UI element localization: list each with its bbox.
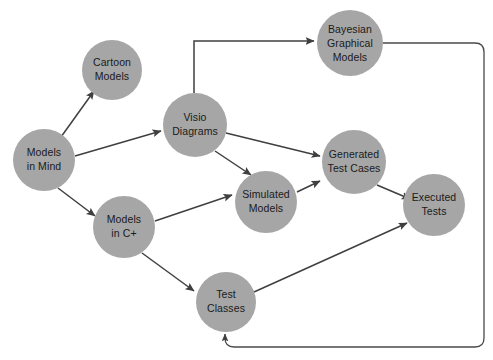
edge-mind-to-cplus	[58, 188, 95, 216]
edge-cplus-to-simulated	[155, 195, 232, 221]
node-label-line1: Executed	[412, 191, 457, 203]
node-label-line2: Models	[249, 202, 283, 214]
node-label-line3: Models	[333, 51, 367, 63]
node-generated-test-cases[interactable]: Generated Test Cases	[322, 130, 386, 194]
diagram-canvas: Models in Mind Cartoon Models Visio Diag…	[0, 0, 493, 360]
node-label-line1: Bayesian	[328, 23, 372, 35]
node-label-line2: Test Cases	[328, 162, 381, 174]
node-cartoon-models[interactable]: Cartoon Models	[82, 40, 142, 100]
node-executed-tests[interactable]: Executed Tests	[403, 174, 465, 236]
node-label-line1: Models	[27, 146, 61, 158]
node-bayesian-graphical-models[interactable]: Bayesian Graphical Models	[317, 10, 383, 76]
edge-mind-to-visio	[75, 131, 161, 156]
edge-visio-to-simulated	[215, 151, 251, 175]
node-simulated-models[interactable]: Simulated Models	[235, 171, 297, 233]
node-models-in-c-plus[interactable]: Models in C+	[93, 196, 155, 258]
node-label-line2: Diagrams	[172, 125, 218, 137]
edge-simulated-to-generated	[297, 181, 320, 192]
node-label-line2: Models	[95, 70, 129, 82]
node-label-line1: Models	[107, 213, 141, 225]
node-label-line2: Graphical	[327, 37, 373, 49]
node-visio-diagrams[interactable]: Visio Diagrams	[163, 93, 227, 157]
node-label-line1: Simulated	[242, 188, 290, 200]
node-models-in-mind[interactable]: Models in Mind	[13, 129, 75, 191]
node-label-line2: in Mind	[27, 160, 62, 172]
node-label-line1: Visio	[183, 111, 206, 123]
node-label-line2: Tests	[421, 205, 446, 217]
node-label-line2: Classes	[207, 302, 245, 314]
node-test-classes[interactable]: Test Classes	[196, 272, 256, 332]
edge-cplus-to-testclasses	[142, 253, 194, 291]
node-label-line1: Cartoon	[93, 56, 131, 68]
edge-mind-to-cartoon	[61, 91, 94, 137]
edge-visio-to-generated	[226, 133, 320, 156]
node-layer: Models in Mind Cartoon Models Visio Diag…	[13, 10, 465, 332]
node-label-line1: Test	[216, 288, 236, 300]
diagram-svg: Models in Mind Cartoon Models Visio Diag…	[0, 0, 493, 360]
edge-visio-to-bayesian	[194, 41, 314, 93]
edge-testclasses-to-executed	[254, 223, 407, 292]
node-label-line2: in C+	[111, 227, 136, 239]
node-label-line1: Generated	[329, 148, 380, 160]
